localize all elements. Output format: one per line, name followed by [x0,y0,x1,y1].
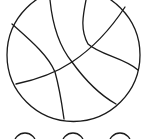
circle-decoration-3 [109,133,131,139]
seam-right-curve [83,0,138,70]
circle-decoration-1 [14,133,36,139]
basketball-icon [7,0,140,122]
circle-decoration-2 [62,133,84,139]
basketball-drawing [0,0,149,139]
bottom-decorations [14,133,131,139]
coloring-page [0,0,149,139]
seam-horizontal [16,7,125,84]
